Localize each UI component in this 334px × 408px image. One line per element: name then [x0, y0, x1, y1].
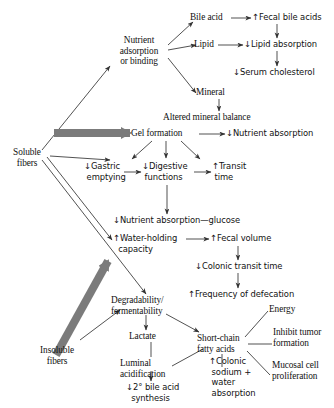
node-gel-formation: Gel formation: [131, 128, 182, 139]
node-water-holding-capacity: ↑Water-holding capacity: [113, 233, 177, 254]
node-inhibit-tumor-formation: Inhibit tumor formation: [273, 327, 321, 348]
node-degradability-fermentability: Degradability/ fermentability: [111, 295, 164, 316]
node-soluble-fibers: Soluble fibers: [2, 147, 52, 168]
node-fecal-volume: ↑Fecal volume: [210, 233, 271, 244]
node-gastric-emptying: ↓Gastric emptying: [84, 161, 126, 182]
node-energy: Energy: [269, 304, 295, 315]
node-frequency-of-defecation: ↑Frequency of defecation: [188, 289, 294, 300]
node-2-bile-acid-synthesis: ↓2° bile acid synthesis: [126, 382, 179, 403]
node-insoluble-fibers: Insoluble fibers: [28, 345, 86, 366]
node-colonic-transit-time: ↓Colonic transit time: [195, 261, 282, 272]
node-altered-mineral-balance: Altered mineral balance: [163, 112, 250, 123]
node-nutrient-absorption-glucose: ↓Nutrient absorption—glucose: [113, 215, 240, 226]
node-mucosal-cell-proliferation: Mucosal cell proliferation: [272, 360, 319, 381]
node-digestive-functions: ↓Digestive functions: [142, 161, 188, 182]
node-lipid-absorption: ↓Lipid absorption: [244, 39, 317, 50]
node-serum-cholesterol: ↓Serum cholesterol: [233, 67, 315, 78]
node-fecal-bile-acids: ↑Fecal bile acids: [252, 12, 321, 23]
node-nutrient-absorption: ↓Nutrient absorption: [226, 128, 313, 139]
node-luminal-acidification: Luminal acidification: [120, 358, 165, 379]
node-transit-time: ↑Transit time: [212, 161, 246, 182]
fiber-effects-flowchart: Soluble fibers Insoluble fibers Nutrient…: [0, 0, 334, 408]
node-colonic-sodium-water-absorption: ↑Colonic sodium + water absorption: [209, 356, 256, 398]
node-lactate: Lactate: [129, 331, 156, 342]
node-bile-acid: Bile acid: [190, 12, 223, 23]
node-short-chain-fatty-acids: Short-chain fatty acids: [197, 333, 240, 354]
node-lipid: Lipid: [194, 39, 214, 50]
node-nutrient-adsorption: Nutrient adsorption or binding: [108, 35, 170, 67]
node-mineral: Mineral: [196, 87, 225, 98]
